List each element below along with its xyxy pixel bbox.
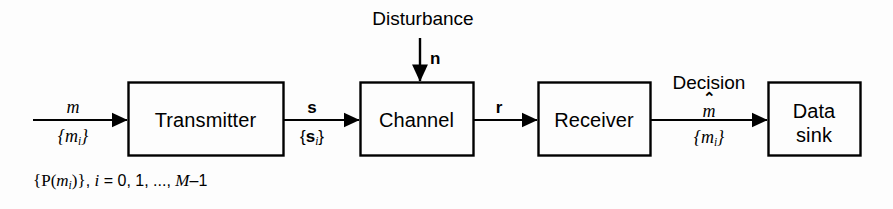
decision-set-open: { <box>694 127 701 147</box>
signal-label-n: n <box>430 50 454 67</box>
formula-values: 0, 1, ..., <box>118 172 176 189</box>
input-set-base: m <box>65 126 78 146</box>
signal-caption-disturbance: Disturbance <box>358 9 488 28</box>
input-set-open: { <box>58 126 65 146</box>
signal-label-r: r <box>482 99 516 116</box>
signal-label-decision-set: {mi} <box>679 128 739 149</box>
block-label-data-sink-line2: sink <box>768 123 860 147</box>
s-set-close: } <box>318 127 324 146</box>
formula-comma: , <box>86 172 95 189</box>
s-set-base: s <box>306 127 315 146</box>
decision-set-base: m <box>701 127 714 147</box>
block-diagram-figure: Transmitter Channel Receiver Data sink m… <box>0 0 893 209</box>
block-label-transmitter: Transmitter <box>128 110 283 130</box>
formula-minus-one: –1 <box>190 172 208 189</box>
m-hat-base: m <box>679 102 739 120</box>
formula-m: m <box>56 171 68 190</box>
block-label-receiver: Receiver <box>538 110 650 130</box>
signal-label-s-set: {si} <box>284 128 340 148</box>
formula-equals: = <box>99 172 117 189</box>
formula-open-brace: { <box>33 171 41 190</box>
formula-upper-m: M <box>175 171 189 190</box>
block-label-data-sink-line1: Data <box>768 99 860 123</box>
decision-set-close: } <box>717 127 724 147</box>
block-label-channel: Channel <box>360 110 473 130</box>
input-set-close: } <box>81 126 88 146</box>
signal-label-input-m: m <box>48 98 98 116</box>
probability-set-formula: {P(mi)}, i = 0, 1, ..., M–1 <box>33 172 207 192</box>
formula-close-brace: } <box>77 171 85 190</box>
formula-p: P <box>41 171 50 190</box>
signal-label-s: s <box>288 99 336 116</box>
signal-label-input-set: {mi} <box>43 127 103 148</box>
block-label-data-sink: Data sink <box>768 99 860 148</box>
signal-label-m-hat: ⌃ m <box>679 93 739 120</box>
